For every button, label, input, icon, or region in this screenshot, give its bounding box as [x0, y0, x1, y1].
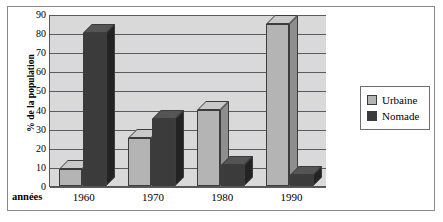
- y-axis-tick-20: 20: [22, 144, 46, 154]
- bar-urbaine-1970[interactable]: [128, 138, 151, 186]
- bar-front-face: [59, 169, 82, 186]
- bar-nomade-1980[interactable]: [221, 165, 244, 186]
- legend: Urbaine Nomade: [360, 86, 430, 130]
- x-axis-tick-1990: 1990: [257, 191, 326, 203]
- legend-item-urbaine[interactable]: Urbaine: [367, 92, 424, 108]
- legend-swatch-icon-nomade: [367, 111, 377, 121]
- bar-front-face: [221, 165, 244, 186]
- legend-item-nomade[interactable]: Nomade: [367, 108, 424, 124]
- y-axis-tick-90: 90: [22, 10, 46, 20]
- y-axis-tick-60: 60: [22, 67, 46, 77]
- y-axis-tick-labels: 9080706050403020100: [22, 15, 46, 187]
- x-axis-tick-1960: 1960: [49, 191, 118, 203]
- bar-front-face: [152, 119, 175, 186]
- bar-front-face: [290, 175, 313, 186]
- y-axis-tick-40: 40: [22, 106, 46, 116]
- y-axis-tick-80: 80: [22, 29, 46, 39]
- legend-label-nomade: Nomade: [382, 110, 419, 122]
- legend-label-urbaine: Urbaine: [382, 94, 417, 106]
- bar-urbaine-1960[interactable]: [59, 169, 82, 186]
- x-axis-tick-1980: 1980: [188, 191, 257, 203]
- bar-nomade-1960[interactable]: [83, 33, 106, 186]
- legend-swatch-icon-urbaine: [367, 95, 377, 105]
- y-axis-tick-10: 10: [22, 163, 46, 173]
- x-axis-title: années: [12, 191, 42, 202]
- bar-front-face: [83, 33, 106, 186]
- plot-area: [49, 15, 326, 187]
- y-axis-tick-70: 70: [22, 48, 46, 58]
- chart-page: % de la population 9080706050403020100 a…: [0, 0, 443, 222]
- bar-urbaine-1980[interactable]: [197, 110, 220, 186]
- bar-side-face: [175, 110, 184, 186]
- bar-side-face: [289, 15, 298, 186]
- bar-front-face: [197, 110, 220, 186]
- bar-nomade-1990[interactable]: [290, 175, 313, 186]
- bar-urbaine-1990[interactable]: [266, 24, 289, 186]
- gridline-0: [50, 187, 326, 188]
- bars-layer: [50, 15, 326, 186]
- x-axis-tick-1970: 1970: [118, 191, 187, 203]
- y-axis-tick-50: 50: [22, 86, 46, 96]
- y-axis-tick-30: 30: [22, 125, 46, 135]
- bar-side-face: [106, 24, 115, 186]
- bar-nomade-1970[interactable]: [152, 119, 175, 186]
- bar-front-face: [266, 24, 289, 186]
- bar-front-face: [128, 138, 151, 186]
